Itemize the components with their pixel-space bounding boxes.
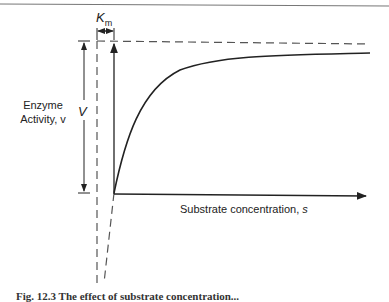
x-axis — [114, 194, 366, 196]
vmax-label: V — [78, 104, 87, 119]
y-axis-label-line2: Activity, v — [10, 112, 76, 126]
km-letter: K — [96, 10, 105, 25]
x-axis-label: Substrate concentration, s — [180, 203, 308, 215]
page-top-rule — [0, 4, 389, 6]
saturation-curve — [114, 53, 370, 193]
km-label: Km — [96, 10, 112, 28]
x-axis-var: s — [302, 203, 308, 215]
km-subscript: m — [105, 18, 113, 28]
tangent-dashed-line — [104, 193, 114, 283]
vmax-asymptote — [97, 41, 370, 44]
y-axis-label: Enzyme Activity, v — [10, 98, 76, 126]
figure-caption: Fig. 12.3 The effect of substrate concen… — [16, 290, 239, 302]
y-axis-label-line1: Enzyme — [10, 98, 76, 112]
x-axis-label-text: Substrate concentration, — [180, 203, 302, 215]
